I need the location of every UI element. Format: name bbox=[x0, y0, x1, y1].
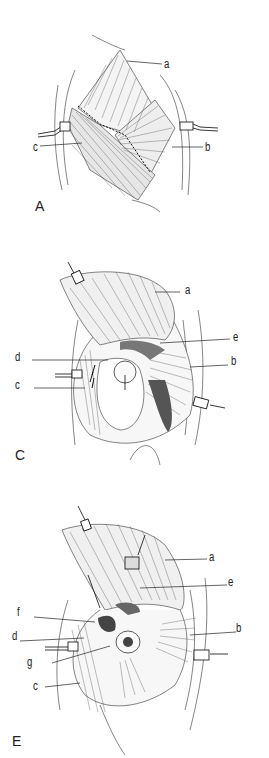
panel-label-c: C bbox=[15, 448, 25, 462]
label-f: f bbox=[17, 606, 20, 618]
label-b: b bbox=[231, 355, 236, 367]
label-d: d bbox=[15, 351, 20, 363]
label-c: c bbox=[33, 680, 38, 692]
label-a: a bbox=[209, 551, 214, 563]
panel-label-a: A bbox=[35, 199, 44, 213]
label-c: c bbox=[33, 141, 38, 153]
panel-e: a e f b d g c E bbox=[0, 500, 269, 758]
label-e: e bbox=[233, 331, 238, 343]
muscle-illustration-c bbox=[0, 250, 269, 500]
label-e: e bbox=[228, 576, 233, 588]
label-d: d bbox=[12, 630, 17, 642]
muscle-illustration-e bbox=[0, 500, 269, 758]
label-b: b bbox=[236, 622, 241, 634]
label-a: a bbox=[164, 58, 169, 70]
panel-label-e: E bbox=[12, 734, 21, 748]
label-g: g bbox=[27, 656, 32, 668]
label-b: b bbox=[205, 141, 210, 153]
panel-c: a e d b c C bbox=[0, 250, 269, 500]
panel-a: a c b A bbox=[0, 0, 269, 250]
label-c: c bbox=[15, 379, 20, 391]
label-a: a bbox=[185, 284, 190, 296]
